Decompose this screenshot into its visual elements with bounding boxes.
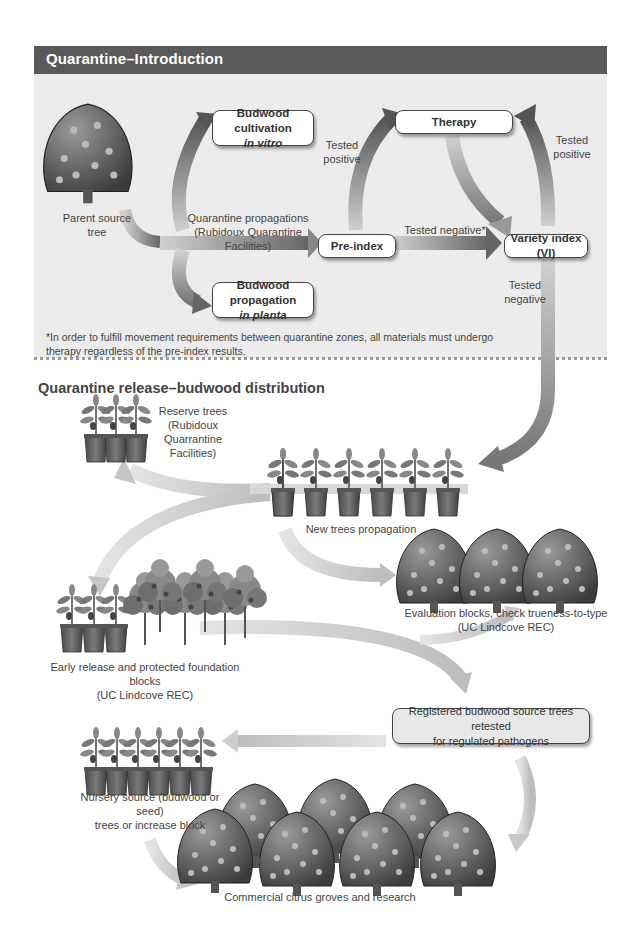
label-line: negative [501, 292, 549, 306]
node-label-italic: in planta [239, 308, 286, 323]
label-line: Reserve trees [158, 404, 228, 418]
label-reserve-trees: Reserve trees (Rubidoux Quarrantine Faci… [158, 404, 228, 460]
node-label: Pre-index [331, 239, 383, 254]
label-line: Quarantine propagations [178, 211, 318, 225]
node-label: Budwood propagation [213, 278, 313, 308]
label-tested-negative-star: Tested negative* [400, 223, 490, 237]
label-line: Nursery source (budwood or seed) [70, 790, 230, 818]
label-parent-source-tree: Parent source tree [52, 211, 142, 239]
node-label: for regulated pathogens [433, 734, 549, 749]
label-nursery-source: Nursery source (budwood or seed) trees o… [70, 790, 230, 832]
node-label-italic: in vitro [244, 136, 282, 151]
node-budwood-cultivation-in-vitro: Budwood cultivation in vitro [212, 110, 314, 146]
label-line: Tested [318, 138, 366, 152]
label-line: (UC Lindcove REC) [386, 620, 626, 634]
label-line: positive [318, 152, 366, 166]
node-budwood-propagation-in-planta: Budwood propagation in planta [212, 282, 314, 318]
label-tested-negative: Tested negative [501, 278, 549, 306]
node-label: Therapy [432, 115, 477, 130]
label-line: Quarrantine [158, 432, 228, 446]
node-registered-budwood: Registered budwood source trees retested… [392, 708, 590, 744]
label-line: (UC Lindcove REC) [40, 688, 250, 702]
label-line: Tested [548, 133, 596, 147]
label-evaluation-blocks: Evaluation blocks, check trueness-to-typ… [386, 606, 626, 634]
label-line: Facilities) [158, 446, 228, 460]
footnote: *In order to fulfill movement requiremen… [46, 330, 606, 358]
label-line: positive [548, 147, 596, 161]
label-early-release: Early release and protected foundation b… [40, 660, 250, 702]
node-label: Registered budwood source trees retested [393, 704, 589, 734]
label-line: Evaluation blocks, check trueness-to-typ… [386, 606, 626, 620]
label-line: (Rubidoux Quarantine Facilities) [178, 225, 318, 253]
label-line: Tested [501, 278, 549, 292]
node-label: Budwood cultivation [213, 106, 313, 136]
footnote-line: *In order to fulfill movement requiremen… [46, 330, 606, 344]
label-tested-positive-right: Tested positive [548, 133, 596, 161]
label-line: trees or increase block [70, 818, 230, 832]
label-tested-positive-left: Tested positive [318, 138, 366, 166]
section-title-release: Quarantine release–budwood distribution [38, 380, 325, 396]
label-line: (Rubidoux [158, 418, 228, 432]
label-line: Early release and protected foundation b… [40, 660, 250, 688]
node-therapy: Therapy [395, 110, 513, 134]
node-pre-index: Pre-index [318, 234, 396, 258]
footnote-line: therapy regardless of the pre-index resu… [46, 344, 606, 358]
node-variety-index: Variety index (VI) [504, 234, 588, 258]
label-quarantine-propagations: Quarantine propagations (Rubidoux Quaran… [178, 211, 318, 253]
label-commercial-groves: Commercial citrus groves and research [220, 890, 420, 904]
label-new-trees-propagation: New trees propagation [296, 522, 426, 536]
node-label: Variety index (VI) [505, 231, 587, 261]
